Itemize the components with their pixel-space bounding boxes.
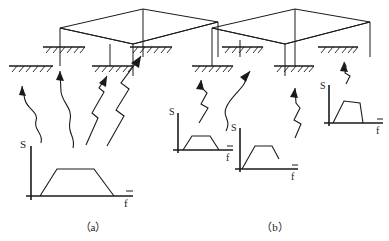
seismic-bolt-3 — [86, 76, 107, 145]
panel-b: S f S f S f （b） — [169, 9, 383, 233]
ground-hatch — [277, 66, 314, 72]
seismic-wave-bolts-a — [19, 56, 141, 148]
ground-hatch — [133, 47, 172, 53]
figure-root: S f （a） — [0, 0, 389, 241]
bolt-arrowhead-1 — [196, 80, 204, 90]
support-4-b — [318, 47, 358, 53]
support-2-b — [222, 47, 263, 53]
spectrum-s-label: S — [20, 138, 26, 150]
spectrum-plot-b-2: S f — [320, 80, 383, 136]
ground-hatch — [321, 47, 358, 53]
panel-a: S f （a） — [9, 9, 218, 233]
ground-hatch — [195, 66, 233, 72]
box-edge-bl-b — [212, 28, 285, 44]
spectrum-f-label: f — [124, 197, 128, 209]
box-edge-br-b — [285, 22, 370, 44]
support-3-a — [92, 66, 133, 72]
spectrum-curve — [183, 136, 219, 150]
spectrum-curve — [333, 101, 363, 123]
panel-caption-b: （b） — [261, 221, 289, 233]
bolt-arrowhead-4 — [340, 62, 348, 72]
ground-hatch — [95, 66, 133, 72]
box-edge-br-a — [133, 22, 218, 44]
box-top-face-a — [60, 9, 218, 44]
support-3-b — [274, 66, 314, 72]
spectrum-f-label: f — [226, 152, 230, 163]
spectrum-curve — [242, 146, 279, 169]
spectrum-f-label: f — [376, 125, 380, 136]
spectrum-curve — [40, 169, 114, 196]
seismic-bolt-2 — [60, 71, 74, 148]
ground-hatch — [46, 47, 85, 53]
bolt-arrowhead-3 — [290, 88, 298, 98]
seismic-excitation-figure: S f （a） — [0, 0, 389, 241]
support-1-a — [9, 66, 53, 72]
ground-hatch — [225, 47, 263, 53]
spectrum-s-label: S — [169, 106, 175, 117]
support-4-a — [130, 47, 172, 53]
support-2-a — [43, 47, 85, 53]
spectrum-plot-a-0: S f — [20, 138, 133, 209]
seismic-wave-bolts-b — [196, 62, 350, 138]
ground-hatch — [12, 66, 52, 72]
bolt-arrowhead-2 — [56, 71, 64, 81]
box-top-face-b — [212, 9, 370, 44]
spectrum-f-label: f — [291, 171, 295, 182]
seismic-bolt-4 — [107, 56, 141, 146]
spectrum-plot-b-0: S f — [169, 106, 233, 163]
bolt-arrowhead-2 — [240, 71, 250, 82]
spectrum-plot-b-1: S f — [231, 122, 298, 182]
box-edge-bl-a — [60, 28, 133, 44]
panel-caption-a: （a） — [80, 221, 107, 233]
spectrum-s-label: S — [320, 80, 326, 91]
bolt-arrowhead-1 — [19, 86, 26, 96]
spectrum-s-label: S — [231, 122, 237, 133]
support-1-b — [192, 66, 233, 72]
